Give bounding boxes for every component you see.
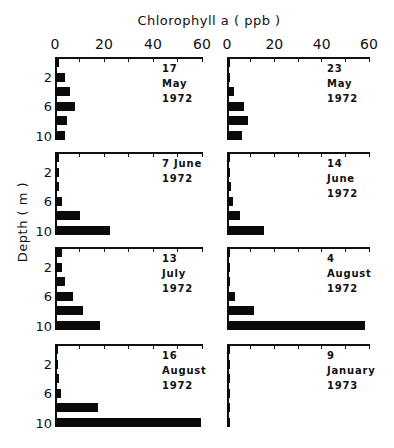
bar-depth-6 [227,197,233,206]
bar-depth-2 [55,360,58,369]
x-axis-tick [321,152,322,157]
bar-depth-8 [55,306,83,315]
x-axis-tick [128,344,129,349]
bar-depth-8 [227,211,240,220]
bar-depth-0 [227,345,230,354]
bar-depth-8 [55,211,80,220]
bar-depth-4 [55,374,59,383]
bar-depth-4 [55,182,59,191]
bar-depth-8 [227,306,254,315]
bar-depth-4 [227,277,230,286]
x-axis-tick [153,57,154,62]
bar-depth-2 [55,168,59,177]
x-axis-tick [298,152,299,157]
x-axis-tick [250,57,251,62]
bar-depth-2 [227,263,230,272]
bar-depth-6 [55,292,73,301]
bar-depth-6 [227,102,244,111]
bar-depth-8 [55,403,98,412]
bar-depth-6 [55,197,62,206]
x-axis-tick [153,247,154,252]
panel-14-june-1972: 14 June1972 [227,152,369,230]
x-tick-label: 20 [95,36,113,52]
x-axis-tick [274,344,275,349]
x-axis-tick [250,152,251,157]
x-tick-label: 20 [265,36,283,52]
panel-date-label: 14 June1972 [327,156,369,201]
panel-7-june-1972: 7 June1972 [55,152,202,230]
x-tick-label: 40 [144,36,162,52]
bar-depth-4 [227,182,231,191]
depth-tick-label: 6 [32,99,52,114]
x-axis-tick [321,344,322,349]
depth-tick-label: 2 [32,260,52,275]
x-axis-tick [274,247,275,252]
bar-depth-2 [55,263,62,272]
bar-depth-6 [55,102,75,111]
bar-depth-6 [227,292,235,301]
depth-tick-label: 10 [32,128,52,143]
bar-depth-2 [227,168,230,177]
depth-tick-label: 2 [32,70,52,85]
panel-16-august-1972: 16 August1972 [55,344,202,422]
depth-tick-label: 10 [32,223,52,238]
x-axis-tick [274,152,275,157]
bar-depth-10 [227,321,365,330]
x-axis-tick [104,247,105,252]
depth-tick-label: 6 [32,194,52,209]
panel-date-label: 16 August1972 [162,348,207,393]
bar-depth-4 [227,374,230,383]
panel-4-august-1972: 4 August1972 [227,247,369,325]
bar-depth-10 [227,418,230,427]
bar-depth-6 [227,389,230,398]
x-axis-tick [128,57,129,62]
x-axis-tick [128,152,129,157]
bar-depth-10 [55,418,201,427]
bar-depth-4 [55,87,70,96]
panel-9-january-1973: 9 January1973 [227,344,369,422]
x-axis-tick [79,247,80,252]
x-axis-tick [321,247,322,252]
x-tick-label: 0 [51,36,60,52]
depth-tick-label: 6 [32,386,52,401]
bar-depth-2 [55,73,65,82]
chart-title: Chlorophyll a ( ppb ) [0,13,394,28]
x-axis-tick [250,344,251,349]
bar-depth-4 [227,87,234,96]
x-axis-tick [298,247,299,252]
panel-date-label: 9 January1973 [327,348,376,393]
bar-depth-10 [55,131,65,140]
x-tick-label: 0 [223,36,232,52]
x-axis-tick [104,344,105,349]
x-axis-tick [79,57,80,62]
bar-depth-0 [227,248,230,257]
bar-depth-0 [227,58,230,67]
x-tick-label: 60 [193,36,211,52]
depth-tick-label: 6 [32,289,52,304]
y-axis-label: Depth ( m ) [15,182,30,262]
x-axis-tick [321,57,322,62]
x-axis-tick [153,344,154,349]
bar-depth-0 [55,58,59,67]
x-axis-tick [274,57,275,62]
x-axis-tick [298,57,299,62]
depth-tick-label: 2 [32,357,52,372]
x-axis-tick [104,57,105,62]
panel-13-july-1972: 13 July1972 [55,247,202,325]
panel-date-label: 13 July1972 [162,251,202,296]
panel-23-may-1972: 23 May1972 [227,57,369,135]
panel-date-label: 4 August1972 [327,251,372,296]
bar-depth-10 [55,321,100,330]
x-axis-tick [153,152,154,157]
bar-depth-8 [227,116,248,125]
x-axis-tick [79,152,80,157]
depth-tick-label: 10 [32,318,52,333]
bar-depth-8 [227,403,230,412]
bar-depth-10 [227,226,264,235]
panel-date-label: 7 June1972 [162,156,202,186]
x-axis-tick [298,344,299,349]
x-axis-tick [128,247,129,252]
x-axis-tick [79,344,80,349]
bar-depth-2 [227,73,230,82]
x-tick-label: 60 [360,36,378,52]
